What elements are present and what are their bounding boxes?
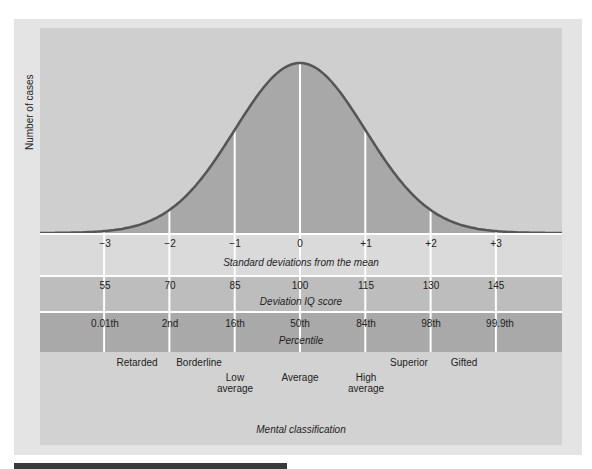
class-low-average-line1: Low [200, 372, 270, 383]
sd-tick: +3 [476, 238, 516, 249]
sd-tick: −1 [215, 238, 255, 249]
class-borderline: Borderline [164, 357, 234, 368]
class-retarded: Retarded [102, 357, 172, 368]
percentile-tick: 50th [280, 318, 320, 329]
sd-tick: −2 [150, 238, 190, 249]
class-low-average-line2: average [200, 383, 270, 394]
iq-tick: 55 [85, 280, 125, 291]
iq-tick: 70 [150, 280, 190, 291]
percentile-tick: 84th [346, 318, 386, 329]
sd-tick: +2 [411, 238, 451, 249]
percentile-tick: 99.9th [480, 318, 520, 329]
baseline [40, 233, 562, 235]
iq-tick: 100 [280, 280, 320, 291]
iq-tick: 145 [476, 280, 516, 291]
class-gifted: Gifted [429, 357, 499, 368]
percentile-tick: 0.01th [85, 318, 125, 329]
row-divider [40, 311, 562, 313]
percentile-caption: Percentile [151, 335, 451, 346]
sd-caption: Standard deviations from the mean [151, 257, 451, 268]
y-axis-label: Number of cases [24, 74, 35, 150]
chart-area: −3 −2 −1 0 +1 +2 +3 Standard deviations … [40, 28, 562, 445]
class-low-average: Low average [200, 372, 270, 394]
percentile-tick: 16th [215, 318, 255, 329]
sd-gridlines [104, 63, 496, 352]
iq-tick: 130 [411, 280, 451, 291]
sd-tick: +1 [346, 238, 386, 249]
iq-tick: 115 [346, 280, 386, 291]
percentile-tick: 98th [411, 318, 451, 329]
percentile-tick: 2nd [150, 318, 190, 329]
sd-tick: −3 [85, 238, 125, 249]
class-high-average-line2: average [331, 383, 401, 394]
sd-tick: 0 [280, 238, 320, 249]
bottom-bar [14, 463, 287, 469]
iq-caption: Deviation IQ score [151, 296, 451, 307]
classification-caption: Mental classification [151, 424, 451, 435]
class-average: Average [265, 372, 335, 383]
iq-tick: 85 [215, 280, 255, 291]
class-high-average: High average [331, 372, 401, 394]
row-divider [40, 275, 562, 277]
class-high-average-line1: High [331, 372, 401, 383]
